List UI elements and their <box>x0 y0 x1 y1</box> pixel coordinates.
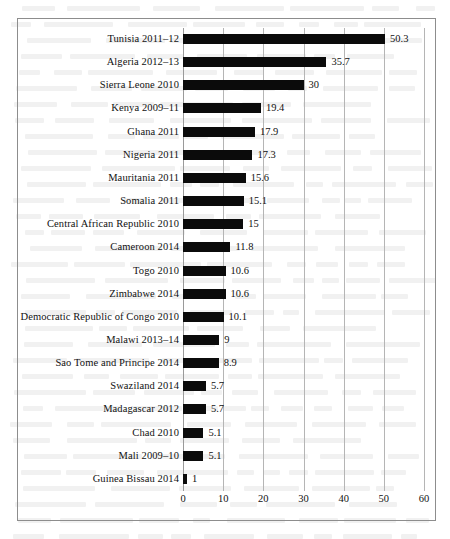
bar-category-label: Nigeria 2011 <box>123 144 179 166</box>
plot-area: Tunisia 2011–1250.3Algeria 2012–1335.7Si… <box>183 28 424 491</box>
x-tick-label: 30 <box>298 493 309 504</box>
bar-row: Ghana 201117.9 <box>183 121 450 143</box>
bar-value-label: 30 <box>309 74 320 96</box>
bar-category-label: Cameroon 2014 <box>110 236 179 258</box>
bar-value-label: 50.3 <box>390 28 408 50</box>
bar-value-label: 15.1 <box>249 190 267 212</box>
bar <box>183 428 203 438</box>
bar <box>183 173 246 183</box>
bar-category-label: Togo 2010 <box>133 260 179 282</box>
bar-row: Tunisia 2011–1250.3 <box>183 28 450 50</box>
x-tick-label: 50 <box>379 493 390 504</box>
bar <box>183 381 206 391</box>
bar-value-label: 19.4 <box>266 97 284 119</box>
bar <box>183 57 326 67</box>
bar-category-label: Tunisia 2011–12 <box>107 28 179 50</box>
bar-value-label: 5.7 <box>211 398 224 420</box>
bar-value-label: 17.3 <box>257 144 275 166</box>
x-tick-label: 60 <box>419 493 430 504</box>
bar-category-label: Sierra Leone 2010 <box>100 74 179 96</box>
bar-category-label: Guinea Bissau 2014 <box>93 468 179 490</box>
bar-value-label: 10.6 <box>231 260 249 282</box>
bar-value-label: 5.1 <box>208 422 221 444</box>
bar-row: Togo 201010.6 <box>183 260 450 282</box>
bar-row: Cameroon 201411.8 <box>183 236 450 258</box>
bar-row: Somalia 201115.1 <box>183 190 450 212</box>
bar-value-label: 8.9 <box>224 352 237 374</box>
bar-row: Zimbabwe 201410.6 <box>183 283 450 305</box>
bar-category-label: Mali 2009–10 <box>119 445 179 467</box>
bar-row: Mali 2009–105.1 <box>183 445 450 467</box>
bar <box>183 358 219 368</box>
bar-category-label: Democratic Republic of Congo 2010 <box>21 306 179 328</box>
bar-category-label: Swaziland 2014 <box>110 375 179 397</box>
bar-category-label: Malawi 2013–14 <box>106 329 179 351</box>
bar <box>183 219 243 229</box>
bar-row: Algeria 2012–1335.7 <box>183 51 450 73</box>
bar <box>183 150 252 160</box>
bar-category-label: Zimbabwe 2014 <box>109 283 179 305</box>
bar-row: Nigeria 201117.3 <box>183 144 450 166</box>
bar-row: Democratic Republic of Congo 201010.1 <box>183 306 450 328</box>
bar <box>183 289 226 299</box>
bar-value-label: 15.6 <box>251 167 269 189</box>
bar-value-label: 35.7 <box>331 51 349 73</box>
bar <box>183 451 203 461</box>
x-tick-label: 20 <box>258 493 269 504</box>
bar-category-label: Sao Tome and Principe 2014 <box>55 352 179 374</box>
x-tick-label: 0 <box>180 493 185 504</box>
bar-value-label: 10.6 <box>231 283 249 305</box>
bar <box>183 34 385 44</box>
bar-category-label: Kenya 2009–11 <box>111 97 179 119</box>
bar <box>183 404 206 414</box>
x-axis: 0102030405060 <box>183 491 424 513</box>
bar-value-label: 17.9 <box>260 121 278 143</box>
bar-value-label: 11.8 <box>235 236 253 258</box>
bar-row: Sao Tome and Principe 20148.9 <box>183 352 450 374</box>
bar <box>183 80 304 90</box>
bar-series: Tunisia 2011–1250.3Algeria 2012–1335.7Si… <box>183 28 424 491</box>
bar <box>183 474 187 484</box>
bar-category-label: Somalia 2011 <box>120 190 179 212</box>
bar-row: Swaziland 20145.7 <box>183 375 450 397</box>
bar-row: Malawi 2013–149 <box>183 329 450 351</box>
bar-row: Sierra Leone 201030 <box>183 74 450 96</box>
bar-category-label: Ghana 2011 <box>127 121 179 143</box>
bar <box>183 266 226 276</box>
bar-category-label: Chad 2010 <box>132 422 179 444</box>
bar-category-label: Madagascar 2012 <box>103 398 179 420</box>
bar-row: Chad 20105.1 <box>183 422 450 444</box>
bar-row: Madagascar 20125.7 <box>183 398 450 420</box>
bar-value-label: 10.1 <box>229 306 247 328</box>
x-tick-label: 10 <box>218 493 229 504</box>
bar-row: Kenya 2009–1119.4 <box>183 97 450 119</box>
bar-row: Guinea Bissau 20141 <box>183 468 450 490</box>
bar-value-label: 5.7 <box>211 375 224 397</box>
bar <box>183 312 224 322</box>
bar-category-label: Mauritania 2011 <box>108 167 179 189</box>
bar-value-label: 9 <box>224 329 229 351</box>
bar-category-label: Algeria 2012–13 <box>107 51 179 73</box>
bar <box>183 196 244 206</box>
bar <box>183 103 261 113</box>
bar-category-label: Central African Republic 2010 <box>47 213 179 235</box>
bar <box>183 335 219 345</box>
bar-value-label: 1 <box>192 468 197 490</box>
bar-row: Central African Republic 201015 <box>183 213 450 235</box>
bar-value-label: 5.1 <box>208 445 221 467</box>
bar <box>183 127 255 137</box>
bar-value-label: 15 <box>248 213 259 235</box>
bar <box>183 242 230 252</box>
bar-row: Mauritania 201115.6 <box>183 167 450 189</box>
x-tick-label: 40 <box>338 493 349 504</box>
